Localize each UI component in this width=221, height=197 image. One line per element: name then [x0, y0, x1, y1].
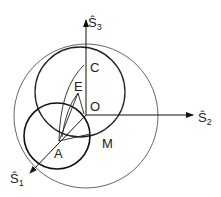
point-label-m: M [102, 136, 113, 151]
point-label-e: E [74, 79, 83, 94]
s1-axis [30, 115, 86, 173]
point-label-c: C [90, 60, 99, 75]
point-label-o: O [90, 99, 100, 114]
axis-label-s1: Ŝ1 [10, 171, 24, 188]
axis-label-s2: Ŝ2 [198, 110, 212, 127]
point-label-a: A [54, 146, 63, 161]
diagram-canvas: C E O A M Ŝ3 Ŝ2 Ŝ1 [0, 0, 221, 197]
axis-label-s3: Ŝ3 [88, 15, 102, 32]
